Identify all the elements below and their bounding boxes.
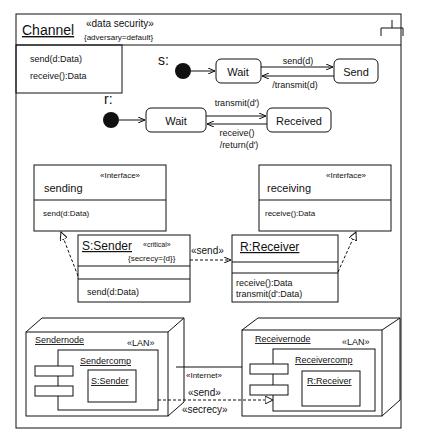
initial-state-r — [103, 112, 119, 128]
secrecy-stereotype: «secrecy» — [182, 404, 228, 415]
package-stereotype: «data security» — [86, 18, 154, 29]
operation-send: send(d:Data) — [30, 54, 82, 64]
sendercomp-port-1 — [35, 366, 73, 376]
send-dependency-label: «send» — [191, 245, 224, 256]
operations-box — [16, 45, 122, 93]
package-name: Channel — [22, 22, 74, 38]
class-receiver-name: R:Receiver — [240, 240, 299, 254]
transition-transmit-d: transmit(d') — [215, 98, 260, 108]
interface-receiving-name: receiving — [267, 182, 311, 194]
sendercomp-port-2 — [35, 386, 73, 396]
interface-receiving — [259, 165, 391, 231]
statechart-r-label: r: — [104, 91, 113, 107]
class-sender-op: send(d:Data) — [87, 287, 139, 297]
interface-sending-op: send(d:Data) — [43, 209, 90, 218]
transition-send: send(d) — [283, 56, 314, 66]
state-s-send-label: Send — [343, 66, 369, 78]
transition-transmit: /transmit(d) — [272, 80, 318, 90]
package-tag: {adversary=default} — [84, 33, 153, 42]
sender-object — [88, 370, 136, 402]
sendernode-stereotype: «LAN» — [127, 338, 155, 348]
state-r-received-label: Received — [276, 115, 322, 127]
subsystem-fork-icon — [381, 20, 403, 36]
interface-receiving-op: receive():Data — [265, 209, 316, 218]
class-receiver-op-1: receive():Data — [236, 278, 293, 288]
uml-diagram: Channel «data security» {adversary=defau… — [0, 0, 426, 443]
receiver-object-name: R:Receiver — [307, 376, 352, 386]
receivernode-stereotype: «LAN» — [342, 337, 370, 347]
internet-stereotype: «Internet» — [186, 371, 223, 380]
interface-receiving-stereotype: «Interface» — [326, 171, 367, 180]
receivercomp-port-2 — [250, 385, 288, 395]
initial-state-s — [175, 63, 191, 79]
interface-sending-stereotype: «Interface» — [100, 171, 141, 180]
transition-receive: receive() — [219, 128, 254, 138]
sendercomp-name: Sendercomp — [80, 356, 131, 366]
receivercomp-name: Receivercomp — [295, 355, 353, 365]
operation-receive: receive():Data — [30, 71, 87, 81]
state-s-wait-label: Wait — [227, 66, 249, 78]
statechart-s-label: s: — [158, 52, 169, 68]
interface-sending-name: sending — [44, 182, 83, 194]
class-receiver-op-2: transmit(d':Data) — [236, 289, 302, 299]
realization-sending — [61, 232, 78, 276]
send-stereotype: «send» — [188, 387, 221, 398]
sender-object-name: S:Sender — [91, 376, 129, 386]
receivercomp-port-1 — [250, 364, 288, 374]
sendernode-name: Sendernode — [35, 335, 84, 345]
state-r-wait-label: Wait — [165, 115, 187, 127]
class-sender-name: S:Sender — [82, 239, 132, 253]
transition-return: /return(d') — [220, 140, 259, 150]
class-sender-stereotype: «critical» — [143, 241, 171, 248]
realization-receiving — [338, 232, 356, 272]
class-sender-tag: {secrecy={d}} — [128, 254, 176, 263]
receivernode-name: Receivernode — [255, 334, 311, 344]
